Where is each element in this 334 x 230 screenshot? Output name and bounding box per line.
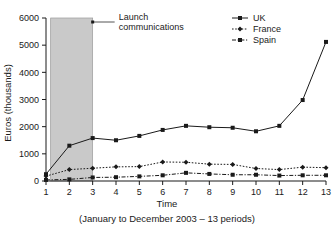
data-point-marker [114, 175, 118, 179]
data-point-marker [160, 159, 165, 164]
data-point-marker [161, 128, 165, 132]
x-tick-label: 9 [230, 187, 235, 197]
x-tick-label: 7 [183, 187, 188, 197]
data-point-marker [300, 165, 305, 170]
x-axis-ticks: 12345678910111213 [43, 181, 331, 197]
data-point-marker [238, 27, 243, 32]
data-point-marker [207, 162, 212, 167]
data-point-marker [324, 40, 328, 44]
y-tick-label: 5000 [19, 40, 39, 50]
x-tick-label: 3 [90, 187, 95, 197]
x-tick-label: 12 [298, 187, 308, 197]
legend-label-uk: UK [253, 13, 266, 23]
data-point-marker [277, 167, 282, 172]
annotation-label-line1: Launch [119, 12, 149, 22]
data-point-marker [254, 173, 258, 177]
x-axis-title: Time [157, 198, 178, 209]
x-tick-label: 5 [137, 187, 142, 197]
chart-legend: UKFranceSpain [232, 13, 281, 45]
y-axis-title: Euros (thousands) [2, 64, 13, 142]
annotation-label-line2: communications [119, 22, 185, 32]
y-tick-label: 0 [34, 176, 39, 186]
launch-communications-band [51, 18, 93, 181]
x-tick-label: 4 [113, 187, 118, 197]
data-point-marker [137, 164, 142, 169]
x-tick-label: 2 [67, 187, 72, 197]
chart-figure: 0100020003000400050006000 12345678910111… [0, 0, 334, 230]
y-tick-label: 3000 [19, 95, 39, 105]
data-point-marker [254, 166, 259, 171]
data-point-marker [91, 136, 95, 140]
chart-caption: (January to December 2003 – 13 periods) [79, 213, 255, 224]
data-point-marker [231, 173, 235, 177]
y-tick-label: 6000 [19, 13, 39, 23]
data-point-marker [137, 134, 141, 138]
data-point-marker [161, 173, 165, 177]
x-tick-label: 8 [207, 187, 212, 197]
y-axis-ticks: 0100020003000400050006000 [19, 13, 46, 186]
y-tick-label: 2000 [19, 122, 39, 132]
line-chart-canvas: 0100020003000400050006000 12345678910111… [0, 0, 334, 230]
data-point-marker [184, 160, 189, 165]
x-tick-label: 13 [321, 187, 331, 197]
data-point-marker [207, 172, 211, 176]
data-point-marker [114, 138, 118, 142]
data-point-marker [67, 177, 71, 181]
data-point-marker [184, 171, 188, 175]
annotation-leader [91, 21, 115, 24]
legend-label-france: France [253, 24, 281, 34]
data-point-marker [254, 129, 258, 133]
annotation-leader-marker [91, 21, 94, 24]
data-point-marker [277, 174, 281, 178]
x-tick-label: 1 [43, 187, 48, 197]
legend-label-spain: Spain [253, 35, 276, 45]
data-point-marker [207, 125, 211, 129]
x-tick-label: 10 [251, 187, 261, 197]
data-point-marker [231, 126, 235, 130]
y-tick-label: 1000 [19, 149, 39, 159]
x-tick-label: 11 [275, 187, 284, 197]
y-tick-label: 4000 [19, 68, 39, 78]
data-point-marker [137, 174, 141, 178]
data-point-marker [277, 124, 281, 128]
data-point-marker [238, 16, 242, 20]
x-tick-label: 6 [160, 187, 165, 197]
data-point-marker [324, 173, 328, 177]
data-point-marker [301, 173, 305, 177]
data-point-marker [44, 178, 48, 182]
data-point-marker [230, 162, 235, 167]
data-point-marker [67, 144, 71, 148]
data-point-marker [114, 164, 119, 169]
data-point-marker [184, 124, 188, 128]
data-point-marker [238, 38, 242, 42]
data-point-marker [301, 98, 305, 102]
data-point-marker [91, 175, 95, 179]
data-point-marker [324, 165, 329, 170]
